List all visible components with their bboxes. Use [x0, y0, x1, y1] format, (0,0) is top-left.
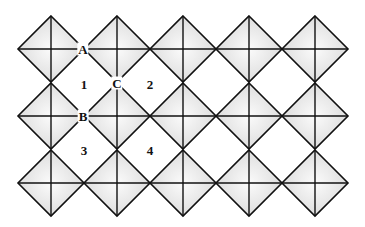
region-label-3: 3: [81, 144, 88, 157]
point-label-a: A: [77, 43, 88, 56]
octahedron-tile: [216, 150, 282, 216]
region-label-4: 4: [147, 144, 154, 157]
octahedron-tile: [150, 83, 216, 149]
octahedron-tile: [282, 150, 348, 216]
octahedron-tile: [84, 150, 150, 216]
region-label-1: 1: [81, 78, 88, 91]
octahedron-tile: [18, 16, 84, 82]
octahedron-tile: [282, 16, 348, 82]
octahedron-tile: [84, 16, 150, 82]
octahedron-tile: [282, 83, 348, 149]
octahedron-tile: [216, 83, 282, 149]
octahedron-tile: [150, 16, 216, 82]
diagram-canvas: A B C 1 2 3 4: [0, 0, 365, 227]
octahedron-tile: [216, 16, 282, 82]
region-label-2: 2: [147, 78, 154, 91]
octahedron-tile: [84, 83, 150, 149]
octahedra-tiling: [0, 0, 365, 227]
octahedron-tile: [150, 150, 216, 216]
octahedron-tile: [18, 150, 84, 216]
point-label-b: B: [78, 110, 89, 123]
point-label-c: C: [111, 77, 122, 90]
octahedron-tile: [18, 83, 84, 149]
